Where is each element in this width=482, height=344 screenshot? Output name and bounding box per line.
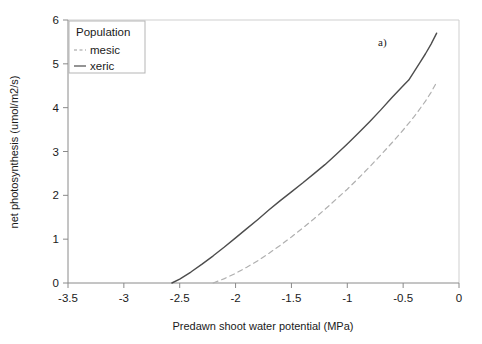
- panel-label: a): [378, 36, 387, 49]
- legend-label-xeric: xeric: [90, 60, 115, 72]
- y-tick-label: 6: [53, 14, 59, 26]
- x-tick-label: -1.5: [282, 292, 302, 304]
- figure-panel: -3.5-3-2.5-2-1.5-1-0.50 0123456 Predawn …: [0, 0, 482, 344]
- x-axis-title: Predawn shoot water potential (MPa): [173, 320, 354, 332]
- y-tick-label: 0: [53, 277, 59, 289]
- x-tick-label: -3.5: [58, 292, 78, 304]
- x-tick-label: -3: [119, 292, 129, 304]
- x-tick-label: -1: [342, 292, 352, 304]
- x-tick-label: -2: [230, 292, 240, 304]
- y-tick-label: 4: [53, 102, 60, 114]
- x-tick-label: 0: [456, 292, 462, 304]
- y-tick-label: 2: [53, 189, 59, 201]
- legend: Population mesic xeric: [69, 21, 145, 73]
- y-axis-title: net photosynthesis (umol/m2/s): [8, 76, 20, 229]
- y-tick-label: 3: [53, 146, 59, 158]
- legend-title: Population: [76, 26, 130, 38]
- legend-label-mesic: mesic: [90, 44, 120, 56]
- chart-canvas: -3.5-3-2.5-2-1.5-1-0.50 0123456 Predawn …: [0, 0, 482, 344]
- y-tick-label: 1: [53, 233, 59, 245]
- x-tick-label: -2.5: [170, 292, 190, 304]
- y-tick-label: 5: [53, 58, 59, 70]
- x-tick-label: -0.5: [393, 292, 413, 304]
